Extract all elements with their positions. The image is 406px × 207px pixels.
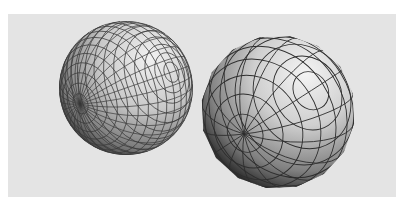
high-poly-sphere xyxy=(46,8,206,168)
spheres-figure xyxy=(0,0,406,207)
low-poly-sphere xyxy=(176,9,381,207)
